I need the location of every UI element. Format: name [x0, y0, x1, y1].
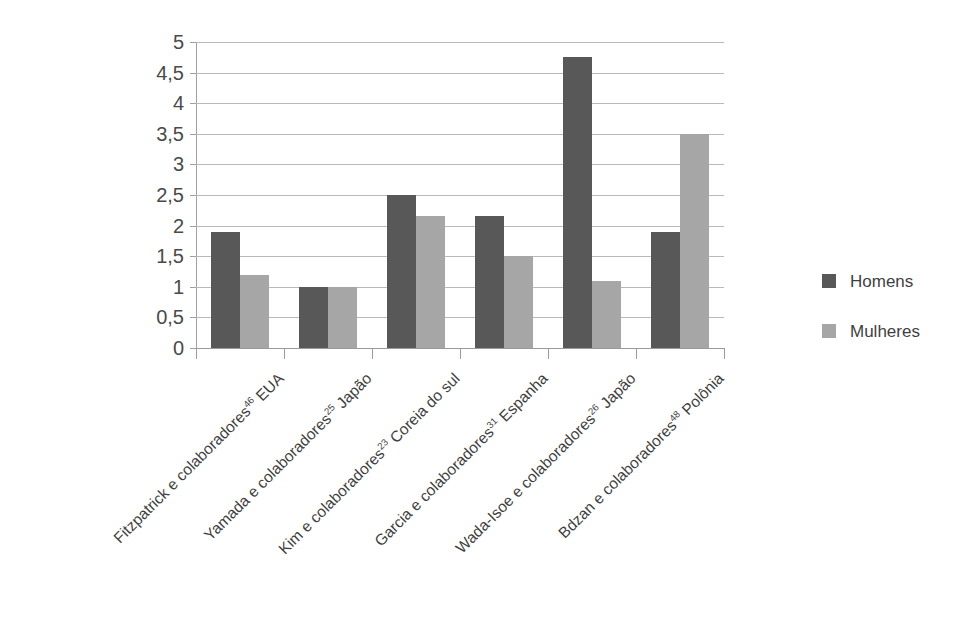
y-axis-tick-label: 0,5 [156, 307, 184, 327]
bar-mulheres [328, 287, 357, 348]
legend-item-mulheres: Mulheres [822, 318, 920, 344]
bar-mulheres [504, 256, 533, 348]
bar-mulheres [592, 281, 621, 348]
y-axis-tick-label: 3,5 [156, 124, 184, 144]
x-axis-tick-mark [372, 349, 373, 359]
x-axis-category-label: Wada-Isoe e colaboradores26 Japão [204, 370, 639, 632]
x-axis-category-label: Kim e colaboradores23 Coreia do sul [28, 370, 463, 632]
x-axis-category-label: Yamada e colaboradores25 Japão [0, 370, 375, 632]
bar-homens [387, 195, 416, 348]
y-axis-tick-label: 5 [173, 32, 184, 52]
y-axis-tick-labels: 54,543,532,521,510,50 [130, 42, 184, 348]
bar-homens [211, 232, 240, 348]
y-axis-tick-label: 0 [173, 338, 184, 358]
x-axis-category-label: Fitzpatrick e colaboradores46 EUA [0, 370, 287, 632]
y-axis-tick-label: 2 [173, 216, 184, 236]
x-axis-category-label: Garcia e colaboradores31 Espanha [116, 370, 551, 632]
bar-mulheres [416, 216, 445, 348]
plot-area [196, 42, 724, 348]
legend: Homens Mulheres [822, 268, 920, 368]
bar-mulheres [240, 275, 269, 348]
legend-swatch-homens [822, 274, 836, 288]
legend-label-mulheres: Mulheres [850, 323, 920, 340]
x-axis-tick-mark [548, 349, 549, 359]
legend-item-homens: Homens [822, 268, 920, 294]
y-axis-tick-label: 1 [173, 277, 184, 297]
x-axis-category-label: Bdzan e colaboradores48 Polônia [292, 370, 727, 632]
y-axis-tick-label: 4 [173, 93, 184, 113]
bar-chart: 54,543,532,521,510,50 Fitzpatrick e cola… [0, 0, 973, 632]
bar-homens [299, 287, 328, 348]
y-axis-tick-label: 3 [173, 154, 184, 174]
bar-homens [563, 57, 592, 348]
x-axis-tick-mark [636, 349, 637, 359]
x-axis-tick-mark [196, 349, 197, 359]
bar-mulheres [680, 134, 709, 348]
bar-homens [475, 216, 504, 348]
y-axis-tick-label: 1,5 [156, 246, 184, 266]
legend-label-homens: Homens [850, 273, 913, 290]
y-axis-tick-label: 4,5 [156, 63, 184, 83]
bar-homens [651, 232, 680, 348]
x-axis-tick-mark [284, 349, 285, 359]
y-axis-tick-label: 2,5 [156, 185, 184, 205]
bars-layer [196, 42, 724, 348]
legend-swatch-mulheres [822, 324, 836, 338]
x-axis-tick-mark [724, 349, 725, 359]
x-axis-tick-mark [460, 349, 461, 359]
